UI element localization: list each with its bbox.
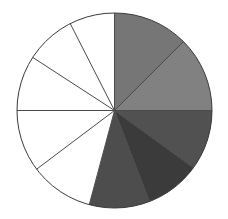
pie-chart-figure bbox=[0, 0, 228, 219]
pie-chart-canvas bbox=[0, 0, 228, 219]
